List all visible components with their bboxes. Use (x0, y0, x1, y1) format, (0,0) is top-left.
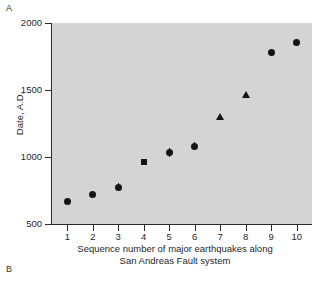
data-point-5-circle (166, 149, 173, 156)
y-tick-1500 (45, 90, 52, 91)
data-point-3-circle (115, 184, 122, 191)
y-tick-label-2000: 2000 (2, 18, 42, 27)
data-point-6-circle (191, 143, 198, 150)
panel-label-b: B (6, 264, 12, 274)
x-tick-label-8: 8 (236, 232, 256, 242)
y-tick-500 (45, 224, 52, 225)
x-tick-label-4: 4 (134, 232, 154, 242)
y-tick-2000 (45, 23, 52, 24)
y-axis-label: Date, A.D. (14, 69, 25, 159)
data-point-8-triangle (242, 91, 250, 98)
x-tick-label-2: 2 (83, 232, 103, 242)
data-point-9-circle (268, 49, 275, 56)
x-axis-label: Sequence number of major earthquakes alo… (30, 243, 320, 266)
x-tick-label-3: 3 (108, 232, 128, 242)
x-axis-label-line2: San Andreas Fault system (30, 255, 320, 267)
x-axis-line (51, 224, 312, 225)
x-tick-label-6: 6 (185, 232, 205, 242)
y-tick-1000 (45, 157, 52, 158)
data-point-4-square (141, 159, 147, 165)
y-tick-label-500: 500 (2, 219, 42, 228)
y-axis-line (51, 23, 52, 225)
x-tick-label-7: 7 (210, 232, 230, 242)
x-axis-label-line1: Sequence number of major earthquakes alo… (30, 243, 320, 255)
panel-label-a: A (6, 3, 12, 13)
x-tick-label-1: 1 (57, 232, 77, 242)
x-tick-label-9: 9 (261, 232, 281, 242)
figure-panel-a: A B 500100015002000 12345678910 Date, A.… (0, 0, 324, 281)
x-tick-label-10: 10 (287, 232, 307, 242)
data-point-7-triangle (216, 113, 224, 120)
x-tick-label-5: 5 (159, 232, 179, 242)
